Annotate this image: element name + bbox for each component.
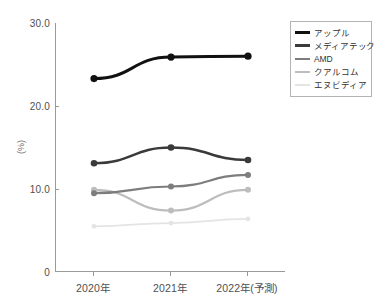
x-tick-mark-2021	[170, 272, 171, 276]
chart-figure: 30.0 20.0 10.0 0 (%) 2020年 2021年 2022年(予…	[0, 0, 376, 304]
legend-item-qualcomm[interactable]: クアルコム	[294, 65, 368, 78]
legend-label-amd: AMD	[314, 54, 333, 64]
x-tick-label-2021: 2021年	[153, 280, 187, 295]
legend-line-swatch-apple	[295, 31, 310, 34]
data-point[interactable]	[90, 75, 97, 82]
data-point[interactable]	[246, 216, 251, 221]
chart-legend: アップル メディアテック AMD クアルコム エヌビディア	[290, 21, 372, 97]
series-canvas	[56, 23, 286, 272]
data-point[interactable]	[168, 208, 174, 214]
y-tick-label-20: 20.0	[30, 101, 50, 112]
x-tick-label-2022: 2022年(予測)	[216, 280, 277, 295]
legend-item-apple[interactable]: アップル	[294, 26, 368, 39]
x-tick-mark-2022	[247, 272, 248, 276]
x-tick-label-2020: 2020年	[76, 280, 110, 295]
legend-item-mediatek[interactable]: メディアテック	[294, 39, 368, 52]
data-point[interactable]	[91, 160, 98, 167]
legend-item-amd[interactable]: AMD	[294, 52, 368, 65]
x-tick-mark-2020	[93, 272, 94, 276]
data-point[interactable]	[168, 184, 174, 190]
y-axis-title: (%)	[16, 140, 26, 154]
data-point[interactable]	[244, 53, 251, 60]
data-point[interactable]	[169, 221, 174, 226]
legend-label-nvidia: エヌビディア	[314, 80, 366, 90]
data-point[interactable]	[168, 144, 175, 151]
legend-line-swatch-mediatek	[295, 44, 310, 47]
legend-line-swatch-nvidia	[295, 84, 310, 86]
data-point[interactable]	[245, 172, 251, 178]
data-point[interactable]	[92, 224, 97, 229]
data-point[interactable]	[167, 53, 174, 60]
legend-line-swatch-amd	[295, 58, 310, 60]
data-point[interactable]	[245, 157, 252, 164]
plot-area	[55, 23, 285, 272]
y-tick-label-30: 30.0	[30, 18, 50, 29]
legend-label-mediatek: メディアテック	[314, 41, 375, 51]
y-tick-label-10: 10.0	[30, 184, 50, 195]
legend-item-nvidia[interactable]: エヌビディア	[294, 78, 368, 91]
y-tick-label-0: 0	[44, 267, 50, 278]
data-point[interactable]	[245, 187, 251, 193]
data-point[interactable]	[91, 190, 97, 196]
legend-label-apple: アップル	[314, 28, 350, 38]
legend-line-swatch-qualcomm	[295, 71, 310, 73]
legend-label-qualcomm: クアルコム	[314, 67, 359, 77]
